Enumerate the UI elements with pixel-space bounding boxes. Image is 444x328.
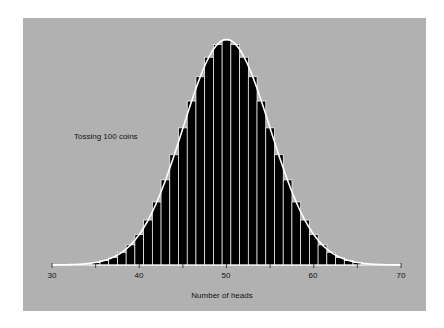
histogram-bar [266, 128, 275, 265]
histogram-bar [248, 77, 257, 265]
histogram-bar [222, 40, 231, 265]
histogram-bar [231, 45, 240, 265]
x-axis-label: Number of heads [0, 291, 444, 300]
histogram-bars [91, 40, 361, 265]
x-tick-label-50: 50 [222, 271, 231, 280]
histogram-bar [170, 155, 179, 265]
histogram-bar [213, 45, 222, 265]
histogram-bar [196, 77, 205, 265]
x-tick-label-60: 60 [309, 271, 318, 280]
histogram-bar [283, 180, 292, 265]
histogram-bar [179, 128, 188, 265]
histogram-bar [161, 180, 170, 265]
histogram-bar [187, 101, 196, 265]
histogram-bar [205, 57, 214, 265]
histogram-bar [257, 101, 266, 265]
x-tick-label-40: 40 [135, 271, 144, 280]
x-tick-label-30: 30 [48, 271, 57, 280]
histogram-bar [240, 57, 249, 265]
x-tick-label-70: 70 [397, 271, 406, 280]
histogram-bar [292, 202, 301, 265]
chart-annotation: Tossing 100 coins [74, 132, 138, 141]
histogram-bar [152, 202, 161, 265]
histogram-bar [274, 155, 283, 265]
